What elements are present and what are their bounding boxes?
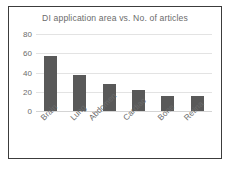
plot-area: 80 60 40 20 0 — [36, 34, 212, 111]
x-axis-labels: Brain Lung Abdomen Cardiac Bone Retina — [36, 111, 212, 153]
y-tick-label-0: 0 — [28, 107, 32, 116]
bar-slot-bone — [153, 34, 182, 111]
chart-frame: DI application area vs. No. of articles … — [8, 6, 222, 159]
bars-layer — [36, 34, 212, 111]
chart-title: DI application area vs. No. of articles — [9, 13, 221, 23]
chart-container: DI application area vs. No. of articles … — [9, 7, 221, 158]
x-label-slot-brain: Brain — [36, 111, 65, 153]
x-label-slot-bone: Bone — [153, 111, 182, 153]
x-label-slot-abdomen: Abdomen — [95, 111, 124, 153]
bar-slot-lung — [65, 34, 94, 111]
x-label-slot-cardiac: Cardiac — [124, 111, 153, 153]
y-tick-label-20: 20 — [23, 87, 32, 96]
y-tick-label-60: 60 — [23, 49, 32, 58]
y-tick-label-40: 40 — [23, 68, 32, 77]
bar-slot-brain — [36, 34, 65, 111]
y-tick-label-80: 80 — [23, 30, 32, 39]
x-label-slot-retina: Retina — [183, 111, 212, 153]
